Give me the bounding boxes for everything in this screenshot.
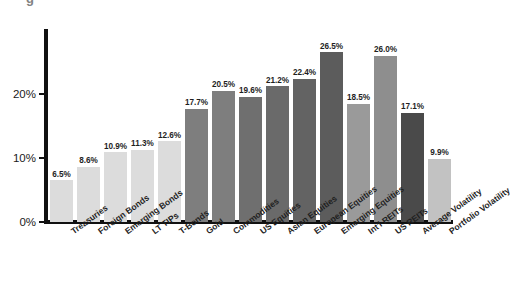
bar-value-label: 18.5% — [347, 93, 370, 102]
bar-slot: 17.7% — [185, 30, 209, 222]
bar-slot: 8.6% — [77, 30, 101, 222]
bar-value-label: 17.1% — [401, 102, 424, 111]
bar — [239, 97, 263, 222]
y-tick-mark — [39, 157, 45, 159]
bar-value-label: 26.0% — [374, 45, 397, 54]
bar-slot: 17.1% — [401, 30, 425, 222]
y-tick-mark — [39, 221, 45, 223]
bar — [401, 113, 425, 222]
bar-slot: 9.9% — [428, 30, 452, 222]
bar-value-label: 17.7% — [185, 98, 208, 107]
bar-value-label: 19.6% — [239, 86, 262, 95]
bar-value-label: 10.9% — [104, 142, 127, 151]
y-tick-label: 10% — [13, 152, 36, 164]
bar-slot: 20.5% — [212, 30, 236, 222]
bar-slot: 19.6% — [239, 30, 263, 222]
bar-slot: 22.4% — [293, 30, 317, 222]
bar-value-label: 20.5% — [212, 80, 235, 89]
bar-value-label: 11.3% — [131, 139, 154, 148]
bar-value-label: 22.4% — [293, 68, 316, 77]
y-tick-label: 0% — [19, 216, 36, 228]
bar — [50, 180, 74, 222]
bar — [212, 91, 236, 222]
bar-value-label: 6.5% — [52, 170, 71, 179]
y-tick-label: 20% — [13, 88, 36, 100]
bar-value-label: 8.6% — [79, 156, 98, 165]
bar-slot: 6.5% — [50, 30, 74, 222]
bar-slot: 21.2% — [266, 30, 290, 222]
bar-slot: 10.9% — [104, 30, 128, 222]
bar-value-label: 12.6% — [158, 131, 181, 140]
bar-value-label: 21.2% — [266, 76, 289, 85]
bar-value-label: 9.9% — [430, 148, 449, 157]
bar-value-label: 26.5% — [320, 42, 343, 51]
x-axis-category-labels: TreasuriesForeign BondsEmerging BondsLT … — [48, 226, 453, 306]
bar — [185, 109, 209, 222]
cropped-title-glyph: g — [26, 0, 34, 6]
y-tick-mark — [39, 93, 45, 95]
